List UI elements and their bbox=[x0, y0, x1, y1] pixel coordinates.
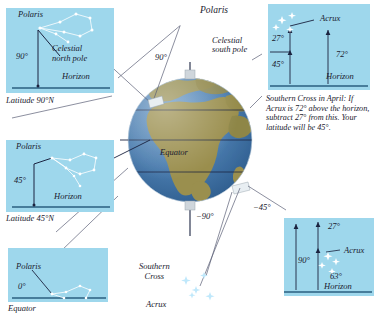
panel-acrux90-horizon: Horizon bbox=[324, 282, 352, 291]
globe-celestial-south-pole-label: Celestialsouth pole bbox=[212, 36, 247, 55]
panel-45n-star-label: Polaris bbox=[16, 142, 41, 151]
panel-equator-angle: 0° bbox=[18, 282, 26, 291]
figure-root: Polaris 90° 45° Celestialsouth pole Equa… bbox=[0, 0, 374, 319]
panel-90n-horizon: Horizon bbox=[62, 72, 90, 81]
globe-polaris-label: Polaris bbox=[200, 6, 228, 16]
panel-acrux45-star-label: Acrux bbox=[320, 14, 340, 23]
panel-acrux45-horizon: Horizon bbox=[326, 72, 354, 81]
panel-acrux-90s: Acrux 27° 90° 63° Horizon bbox=[284, 218, 374, 296]
panel-latitude-90n: Polaris 90° Celestialnorth pole Horizon bbox=[6, 8, 114, 93]
globe-angle-45s: −45° bbox=[253, 203, 271, 212]
panel-acrux45-angle-small: 27° bbox=[272, 34, 284, 43]
panel-equator-caption: Equator bbox=[8, 304, 36, 313]
panel-90n-pole-label: Celestialnorth pole bbox=[52, 44, 87, 63]
panel-latitude-45n: Polaris 45° Horizon bbox=[6, 140, 114, 212]
panel-acrux45-angle-lat: 45° bbox=[272, 60, 284, 69]
globe-angle-90s: −90° bbox=[196, 212, 214, 221]
globe-southern-cross-label: SouthernCross bbox=[139, 262, 170, 281]
panel-equator-star-label: Polaris bbox=[16, 262, 41, 271]
panel-equator: Polaris 0° bbox=[8, 248, 108, 302]
southern-cross-star-cluster bbox=[181, 272, 215, 300]
panel-acrux90-star-label: Acrux bbox=[344, 246, 364, 255]
panel-acrux45-angle-alt: 72° bbox=[336, 50, 348, 59]
panel-90n-star-label: Polaris bbox=[18, 10, 43, 19]
panel-acrux90-angle-alt: 63° bbox=[330, 272, 342, 281]
globe-angle-90n: 90° bbox=[155, 53, 167, 62]
panel-45n-angle: 45° bbox=[14, 176, 26, 185]
panel-acrux45-graphic bbox=[268, 4, 370, 90]
panel-90n-caption: Latitude 90°N bbox=[6, 96, 54, 105]
panel-45n-horizon: Horizon bbox=[54, 192, 82, 201]
big-dipper-stars bbox=[38, 13, 93, 44]
southern-cross-stars bbox=[272, 12, 296, 33]
panel-90n-angle: 90° bbox=[16, 52, 28, 61]
panel-acrux90-angle-small: 27° bbox=[328, 222, 340, 231]
panel-acrux-45s: Acrux 27° 45° 72° Horizon bbox=[268, 4, 370, 90]
panel-45n-caption: Latitude 45°N bbox=[6, 214, 54, 223]
panel-acrux90-angle-lat: 90° bbox=[298, 256, 310, 265]
globe-equator-label: Equator bbox=[160, 148, 188, 157]
globe-acrux-label: Acrux bbox=[146, 300, 166, 309]
panel-equator-graphic bbox=[8, 248, 108, 302]
figure-caption: Southern Cross in April: If Acrux is 72°… bbox=[266, 94, 372, 133]
